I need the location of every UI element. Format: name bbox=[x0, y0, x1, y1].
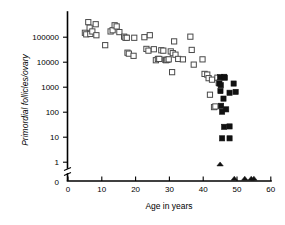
data-point-open-square bbox=[189, 47, 194, 52]
figure-container: 100000 10000 1000 100 10 1 0 Primordial … bbox=[0, 0, 285, 225]
y-ticklabel-group: 100000 10000 1000 100 10 1 0 bbox=[32, 33, 59, 186]
data-point-open-square bbox=[131, 53, 136, 58]
data-point-open-square bbox=[191, 62, 196, 67]
data-point-open-square bbox=[151, 47, 156, 52]
y-ticklabel-10: 10 bbox=[50, 133, 59, 142]
data-point-filled-square bbox=[233, 89, 238, 94]
data-point-filled-square bbox=[218, 88, 223, 93]
x-ticklabel-60: 60 bbox=[266, 185, 275, 194]
data-point-open-square bbox=[161, 48, 166, 53]
x-ticklabel-30: 30 bbox=[165, 185, 174, 194]
data-point-triangle bbox=[242, 176, 248, 180]
data-point-filled-square bbox=[227, 124, 232, 129]
x-ticklabel-0: 0 bbox=[66, 185, 71, 194]
data-point-open-square bbox=[172, 39, 177, 44]
data-point-open-square bbox=[209, 77, 214, 82]
x-axis-group: 0 10 20 30 40 50 60 Age in years bbox=[66, 177, 276, 212]
data-point-filled-square bbox=[231, 81, 236, 86]
data-point-open-square bbox=[157, 56, 162, 61]
data-point-filled-square bbox=[219, 103, 224, 108]
scatter-plot: 100000 10000 1000 100 10 1 0 Primordial … bbox=[0, 0, 285, 225]
y-ticklabel-100: 100 bbox=[46, 108, 60, 117]
data-point-open-square bbox=[180, 57, 185, 62]
x-ticklabel-10: 10 bbox=[97, 185, 106, 194]
data-point-open-square bbox=[147, 33, 152, 38]
data-point-open-square bbox=[132, 35, 137, 40]
data-point-filled-square bbox=[227, 90, 232, 95]
y-ticklabel-1: 1 bbox=[55, 158, 60, 167]
data-point-filled-square bbox=[222, 75, 227, 80]
data-point-filled-square bbox=[227, 136, 232, 141]
data-point-open-square bbox=[142, 35, 147, 40]
y-ticklabel-0: 0 bbox=[55, 178, 60, 187]
data-point-filled-square bbox=[218, 83, 223, 88]
y-ticklabel-10000: 10000 bbox=[37, 58, 60, 67]
data-point-open-square bbox=[188, 34, 193, 39]
x-ticklabel-50: 50 bbox=[233, 185, 242, 194]
x-ticklabel-40: 40 bbox=[199, 185, 208, 194]
x-ticklabel-20: 20 bbox=[131, 185, 140, 194]
data-point-open-square bbox=[200, 57, 205, 62]
data-point-triangle bbox=[217, 162, 223, 166]
data-point-open-square bbox=[170, 70, 175, 75]
data-point-open-square bbox=[86, 20, 91, 25]
data-point-open-square bbox=[166, 57, 171, 62]
y-ticklabel-1000: 1000 bbox=[41, 83, 59, 92]
data-point-filled-square bbox=[221, 96, 226, 101]
data-point-open-square bbox=[207, 92, 212, 97]
data-point-filled-square bbox=[220, 136, 225, 141]
data-point-open-square bbox=[213, 104, 218, 109]
x-axis-title: Age in years bbox=[145, 201, 192, 211]
data-point-filled-square bbox=[222, 124, 227, 129]
data-point-open-square bbox=[124, 35, 129, 40]
data-markers-group bbox=[82, 20, 257, 181]
x-ticklabel-group: 0 10 20 30 40 50 60 bbox=[66, 185, 276, 194]
data-point-open-square bbox=[146, 48, 151, 53]
data-point-open-square bbox=[93, 22, 98, 27]
y-axis-group: 100000 10000 1000 100 10 1 0 Primordial … bbox=[20, 12, 71, 187]
y-ticklabel-100000: 100000 bbox=[32, 33, 59, 42]
data-point-filled-square bbox=[224, 107, 229, 112]
data-point-open-square bbox=[103, 43, 108, 48]
data-point-open-square bbox=[114, 24, 119, 29]
data-point-open-square bbox=[94, 33, 99, 38]
y-axis-title: Primordial follicles/ovary bbox=[20, 53, 30, 145]
